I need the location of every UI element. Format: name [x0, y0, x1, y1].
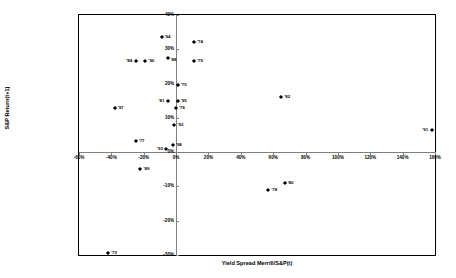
x-axis-tick-label: 20% — [204, 156, 213, 161]
data-point-label: '75 — [181, 83, 187, 87]
plot-frame: -60%-40%-20%0%20%40%60%80%100%120%140%16… — [78, 14, 436, 256]
x-axis-title: Yield Spread Merrill/S&P(t) — [78, 260, 436, 266]
x-axis-tick-label: 160% — [429, 156, 441, 161]
y-axis-title: S&P Return(t+1) — [4, 68, 10, 148]
x-axis-tick-label: 120% — [364, 156, 376, 161]
x-axis-tick-label: -60% — [74, 156, 85, 161]
x-axis-tick-label: 0% — [173, 156, 180, 161]
data-point-label: '73 — [111, 251, 117, 255]
data-point — [266, 188, 270, 192]
x-axis-tick-label: -20% — [138, 156, 149, 161]
data-point-label: '82 — [284, 95, 290, 99]
y-axis-tick-label: 20% — [154, 81, 174, 86]
data-point-label: '89 — [143, 167, 149, 171]
data-point-label: '97 — [118, 105, 124, 109]
y-axis-tick — [176, 49, 179, 50]
data-point-label: '93 — [157, 147, 163, 151]
y-axis-tick — [176, 221, 179, 222]
y-axis-tick — [176, 152, 179, 153]
x-axis-tick-label: 100% — [332, 156, 344, 161]
data-point-label: '90 — [148, 59, 154, 63]
data-point — [282, 181, 286, 185]
scatter-chart: S&P Return(t+1) -60%-40%-20%0%20%40%60%8… — [0, 0, 456, 278]
data-point-label: '79 — [197, 59, 203, 63]
data-point-label: '77 — [139, 139, 145, 143]
data-point — [192, 59, 196, 63]
data-point-label: '80 — [288, 181, 294, 185]
data-point — [112, 105, 116, 109]
y-axis-tick-label: 10% — [154, 116, 174, 121]
data-point-label: '74 — [197, 40, 203, 44]
data-point-label: '91 — [422, 128, 428, 132]
data-point — [166, 56, 170, 60]
x-axis-tick-label: -40% — [106, 156, 117, 161]
y-axis-tick-label: 40% — [154, 13, 174, 18]
data-point — [430, 128, 434, 132]
x-axis-tick-label: 60% — [269, 156, 278, 161]
data-point — [279, 95, 283, 99]
plot-area: -60%-40%-20%0%20%40%60%80%100%120%140%16… — [79, 15, 435, 255]
data-point — [134, 59, 138, 63]
data-point — [192, 40, 196, 44]
y-axis-line — [176, 15, 177, 255]
x-axis-tick-label: 80% — [301, 156, 310, 161]
y-axis-tick-label: -20% — [154, 218, 174, 223]
data-point — [174, 106, 178, 110]
y-axis-tick — [176, 118, 179, 119]
data-point — [176, 99, 180, 103]
data-point-label: '84 — [126, 59, 132, 63]
data-point — [138, 167, 142, 171]
data-point-label: '92 — [177, 123, 183, 127]
y-axis-tick — [176, 255, 179, 256]
data-point-label: '88 — [171, 58, 177, 62]
data-point — [166, 99, 170, 103]
x-axis-line — [79, 152, 435, 153]
y-axis-tick — [176, 186, 179, 187]
data-point-label: '81 — [159, 99, 165, 103]
data-point — [159, 35, 163, 39]
y-axis-tick — [176, 15, 179, 16]
x-axis-tick-label: 140% — [397, 156, 409, 161]
data-point — [134, 139, 138, 143]
data-point-label: '98 — [176, 143, 182, 147]
data-point-label: '78 — [271, 188, 277, 192]
data-point — [171, 143, 175, 147]
y-axis-tick-label: -30% — [154, 253, 174, 258]
x-axis-tick-label: 40% — [236, 156, 245, 161]
data-point-label: '94 — [165, 35, 171, 39]
y-axis-tick-label: 30% — [154, 47, 174, 52]
data-point — [106, 251, 110, 255]
data-point-label: '76 — [179, 106, 185, 110]
y-axis-tick-label: -10% — [154, 184, 174, 189]
data-point — [143, 59, 147, 63]
data-point-label: '95 — [181, 99, 187, 103]
